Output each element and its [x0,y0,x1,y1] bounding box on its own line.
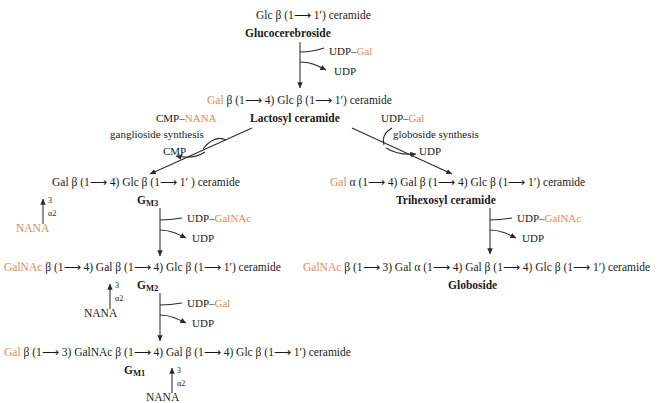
cofactor-cmp-out: CMP [163,145,186,157]
formula-segment: 4) Gal β (1 [450,261,503,273]
formula-segment: 4) Glc β (1 [262,94,315,106]
cofactor-udp-out-2: UDP [419,145,441,157]
species-lactosyl-ceramide-formula: Gal β (1⟶ 4) Glc β (1⟶ 1′) ceramide [207,94,392,107]
species-trihexosyl-ceramide-name: Trihexosyl ceramide [396,194,496,207]
linkage-arrow-icon: ⟶ [204,261,221,273]
cofactor-udp-gal-1: UDP–Gal [329,45,372,57]
gm2-branch-position: 3 [115,281,119,290]
linkage-arrow-icon: ⟶ [245,94,262,106]
linkage-arrow-icon: ⟶ [438,176,455,188]
species-globoside-formula: GalNAc β (1⟶ 3) Gal α (1⟶ 4) Gal β (1⟶ 4… [303,261,650,274]
pathway-arrows [0,0,661,403]
species-trihexosyl-ceramide-formula: Gal α (1⟶ 4) Gal β (1⟶ 4) Glc β (1⟶ 1′) … [330,176,585,189]
formula-segment: 4) Glc β (1 [520,261,573,273]
formula-segment: 4) Gal β (1 [151,346,204,358]
formula-text: Gal α (1⟶ 4) Gal β (1⟶ 4) Glc β (1⟶ 1′) … [330,176,585,188]
species-gm2-name: GM2 [137,279,158,294]
cofactor-udp-out-left-gm2: UDP [192,232,214,244]
linkage-arrow-icon: ⟶ [274,346,291,358]
accent-gal: Gal [409,112,425,124]
cofactor-udp-out-left-gm1: UDP [192,317,214,329]
accent-gal: Gal [215,297,231,309]
species-gm3-name: GM3 [137,194,158,209]
cofactor-udp-galnac-left-1: UDP–GalNAc [187,212,251,224]
formula-segment: 4) Gal β (1 [81,261,134,273]
formula-text: Gal β (1⟶ 3) GalNAc β (1⟶ 4) Gal β (1⟶ 4… [4,346,351,358]
formula-segment: 1′) ceramide [332,94,392,106]
label-ganglioside-synthesis: ganglioside synthesis [110,128,204,140]
accent-nana: NANA [185,112,217,124]
cofactor-udp-galnac-right: UDP–GalNAc [517,212,581,224]
linkage-arrow-icon: ⟶ [315,94,332,106]
formula-segment: 3) GalNAc β (1 [59,346,134,358]
gm3-branch-residue: NANA [16,222,49,235]
linkage-arrow-icon: ⟶ [573,261,590,273]
formula-text: GalNAc β (1⟶ 3) Gal α (1⟶ 4) Gal β (1⟶ 4… [303,261,650,273]
formula-segment: α (1 [347,176,368,188]
formula-segment: β (1 [21,346,42,358]
linkage-arrow-icon: ⟶ [294,9,311,21]
cofactor-udp-gal-left-gm1: UDP–Gal [187,297,230,309]
accent-residue: Gal [4,346,21,358]
accent-residue: Gal [330,176,347,188]
formula-segment: β (1 [42,261,63,273]
species-gm2-formula: GalNAc β (1⟶ 4) Gal β (1⟶ 4) Glc β (1⟶ 1… [4,261,281,274]
formula-segment: 4) Glc β (1 [455,176,508,188]
formula-segment: 3) Gal α (1 [380,261,433,273]
accent-gal: Gal [357,45,373,57]
accent-residue: Gal [207,94,224,106]
species-gm1-subscript: M1 [133,368,145,378]
gm1-branch-linkage: α2 [177,379,185,388]
formula-segment: 4) Glc β (1 [151,261,204,273]
species-gm2-subscript: M2 [146,283,158,293]
species-gm1-name: GM1 [124,364,145,379]
species-lactosyl-ceramide-name: Lactosyl ceramide [250,112,340,125]
formula-segment: β (1 [224,94,245,106]
formula-text: GalNAc β (1⟶ 4) Gal β (1⟶ 4) Glc β (1⟶ 1… [4,261,281,273]
cofactor-udp-out-right: UDP [522,232,544,244]
species-gm3-subscript: M3 [146,198,158,208]
label-globoside-synthesis: globoside synthesis [393,128,479,140]
pathway-diagram: Glc β (1⟶ 1′) ceramide Glucocerebroside … [0,0,661,403]
gm2-branch-linkage: α2 [115,294,123,303]
formula-segment: 1′) ceramide [221,261,281,273]
cofactor-udp-out-1: UDP [334,65,356,77]
formula-segment: 4) Glc β (1 [221,346,274,358]
gm2-branch-residue: NANA [84,307,117,320]
linkage-arrow-icon: ⟶ [503,261,520,273]
formula-segment: Glc β (1 [256,9,294,21]
linkage-arrow-icon: ⟶ [433,261,450,273]
linkage-arrow-icon: ⟶ [508,176,525,188]
formula-segment: 4) Gal β (1 [385,176,438,188]
formula-segment: 1′ ) ceramide [177,176,240,188]
gm3-branch-position: 3 [48,196,52,205]
formula-segment: 1′) ceramide [311,9,371,21]
accent-galnac: GalNAc [215,212,252,224]
gm1-branch-position: 3 [177,366,181,375]
formula-text: Glc β (1⟶ 1′) ceramide [256,9,371,21]
cofactor-cmp-nana: CMP–NANA [156,112,217,124]
linkage-arrow-icon: ⟶ [204,346,221,358]
accent-galnac: GalNAc [545,212,582,224]
species-gm1-formula: Gal β (1⟶ 3) GalNAc β (1⟶ 4) Gal β (1⟶ 4… [4,346,351,359]
formula-segment: β (1 [341,261,362,273]
accent-residue: GalNAc [303,261,341,273]
linkage-arrow-icon: ⟶ [134,346,151,358]
linkage-arrow-icon: ⟶ [363,261,380,273]
linkage-arrow-icon: ⟶ [42,346,59,358]
cofactor-udp-gal-2: UDP–Gal [381,112,424,124]
formula-segment: Gal β (1 [52,176,90,188]
linkage-arrow-icon: ⟶ [134,261,151,273]
linkage-arrow-icon: ⟶ [90,176,107,188]
formula-segment: 1′) ceramide [590,261,650,273]
formula-text: Gal β (1⟶ 4) Glc β (1⟶ 1′) ceramide [207,94,392,106]
species-globoside-name: Globoside [448,279,497,292]
accent-residue: GalNAc [4,261,42,273]
species-glucocerebroside-name: Glucocerebroside [245,27,331,40]
species-gm3-formula: Gal β (1⟶ 4) Glc β (1⟶ 1′ ) ceramide [52,176,240,189]
gm1-branch-residue: NANA [146,391,179,403]
species-glucocerebroside-formula: Glc β (1⟶ 1′) ceramide [256,9,371,22]
formula-text: Gal β (1⟶ 4) Glc β (1⟶ 1′ ) ceramide [52,176,240,188]
formula-segment: 1′) ceramide [291,346,351,358]
linkage-arrow-icon: ⟶ [64,261,81,273]
